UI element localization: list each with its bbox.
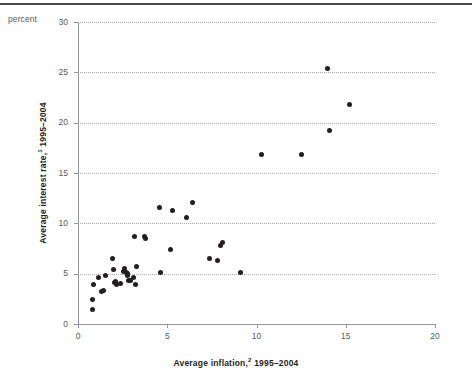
data-point [259,152,264,157]
y-tick-15 [74,173,78,174]
data-point [110,256,115,261]
data-point [91,282,96,287]
x-tick-label-5: 5 [155,332,179,341]
gridline-y-10 [78,223,435,224]
data-point [215,258,220,263]
data-point [90,307,95,312]
x-tick-20 [435,324,436,328]
data-point [347,102,352,107]
data-point [133,282,138,287]
data-point [90,297,95,302]
data-point [170,208,175,213]
data-point [325,66,330,71]
y-tick-10 [74,223,78,224]
y-tick-30 [74,22,78,23]
header-divider [0,3,472,5]
gridline-y-30 [78,22,435,23]
y-axis-title: Average interest rate,1 1995–2004 [38,22,52,324]
x-tick-label-20: 20 [423,332,447,341]
gridline-y-20 [78,123,435,124]
x-tick-10 [257,324,258,328]
data-point [220,240,225,245]
y-axis-title-superscript: 1 [37,149,43,153]
x-tick-5 [167,324,168,328]
gridline-y-15 [78,173,435,174]
x-axis-title-main: Average inflation, [173,358,248,368]
data-point [131,275,136,280]
data-point [96,275,101,280]
data-point [158,270,163,275]
y-tick-20 [74,123,78,124]
data-point [118,281,123,286]
x-axis-title: Average inflation,2 1995–2004 [0,358,472,368]
x-tick-label-0: 0 [66,332,90,341]
y-tick-25 [74,72,78,73]
data-point [103,273,108,278]
data-point [111,267,116,272]
data-point [299,152,304,157]
x-axis-title-years: 1995–2004 [252,358,299,368]
data-point [101,288,106,293]
plot-area [78,22,435,324]
data-point [168,247,173,252]
data-point [157,205,162,210]
y-tick-5 [74,274,78,275]
y-axis-title-main: Average interest rate, [38,153,48,244]
x-tick-0 [78,324,79,328]
data-point [184,215,189,220]
data-point [190,200,195,205]
x-tick-15 [346,324,347,328]
scatter-plot-figure: percent 051015202530 05101520 Average in… [0,0,472,376]
unit-label: percent [8,14,37,24]
data-point [143,236,148,241]
data-point [132,234,137,239]
data-point [134,264,139,269]
data-point [207,256,212,261]
x-tick-label-15: 15 [334,332,358,341]
gridline-y-25 [78,72,435,73]
y-axis-title-years: 1995–2004 [38,102,48,149]
x-tick-label-10: 10 [245,332,269,341]
data-point [327,128,332,133]
